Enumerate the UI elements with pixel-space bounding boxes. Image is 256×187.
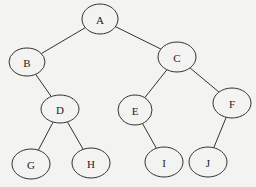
edge-f-j [214, 117, 226, 147]
tree-diagram: ABCDEFGHIJ [0, 0, 256, 187]
edge-c-f [190, 68, 219, 92]
tree-node-d: D [41, 95, 79, 123]
node-label: E [132, 105, 139, 117]
tree-node-j: J [189, 147, 227, 177]
edge-e-i [143, 123, 157, 148]
node-label: G [27, 159, 35, 171]
tree-node-g: G [12, 149, 50, 179]
tree-node-b: B [9, 48, 45, 76]
edge-a-b [41, 28, 85, 54]
edge-d-g [38, 122, 53, 150]
node-label: D [56, 104, 64, 116]
tree-node-f: F [213, 88, 251, 118]
tree-canvas: ABCDEFGHIJ [0, 0, 256, 187]
edge-b-d [36, 74, 52, 96]
tree-node-h: H [72, 148, 110, 178]
node-label: A [96, 14, 104, 26]
tree-node-a: A [82, 4, 118, 34]
edge-d-h [67, 122, 83, 149]
tree-node-c: C [158, 42, 196, 72]
tree-node-i: I [145, 147, 183, 177]
tree-node-e: E [118, 95, 152, 125]
node-label: B [23, 57, 30, 69]
edges-layer [36, 27, 227, 151]
edge-a-c [115, 27, 160, 49]
node-label: C [173, 52, 180, 64]
nodes-layer: ABCDEFGHIJ [9, 4, 251, 179]
node-label: J [206, 157, 211, 169]
edge-c-e [145, 70, 167, 98]
node-label: I [162, 157, 166, 169]
node-label: F [229, 98, 235, 110]
node-label: H [87, 158, 95, 170]
